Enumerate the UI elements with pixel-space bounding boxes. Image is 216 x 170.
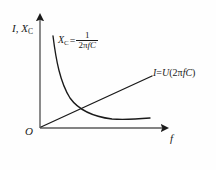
denominator-capacitance: C [90, 40, 96, 50]
reactance-formula-fraction: 1 2πfC [76, 31, 98, 51]
reactance-formula-equals: = [70, 36, 76, 46]
x-axis-label: f [170, 133, 173, 144]
reactance-formula-numerator: 1 [82, 31, 93, 40]
reactance-formula-symbol-subscript: C [64, 39, 69, 47]
current-formula-open-paren: (2 [169, 67, 177, 78]
reactance-formula-denominator: 2πfC [76, 41, 98, 50]
current-formula-annotation: I=U(2πfC) [153, 68, 195, 78]
y-axis-label: I, XC [12, 23, 33, 36]
y-axis-label-reactance-subscript: C [28, 27, 33, 36]
origin-label: O [25, 126, 33, 137]
reactance-formula-annotation: XC= 1 2πfC [58, 31, 98, 51]
reactance-formula-symbol: XC [58, 35, 69, 47]
current-formula-close-paren: ) [192, 67, 195, 78]
y-axis-label-reactance: X [21, 22, 28, 34]
figure-container: I, XC O f XC= 1 2πfC I=U(2πfC) [0, 0, 216, 170]
